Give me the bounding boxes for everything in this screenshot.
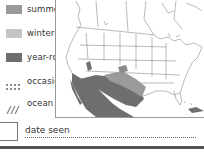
dotted-swatch-icon [6,77,22,86]
legend-item-winter: winter [6,28,54,38]
hatched-swatch-icon [6,99,22,108]
bottom-rule [0,146,204,149]
range-map [55,0,204,118]
sighting-record: date seen [0,119,204,152]
winter-swatch-icon [6,29,22,38]
date-seen-label: date seen [25,125,70,135]
range-map-card: summer winter year-round occasional [0,0,204,152]
summer-swatch-icon [6,5,22,14]
north-america-map [56,0,204,117]
legend-label: winter [27,28,54,38]
seen-checkbox[interactable] [0,122,18,141]
year-round-swatch-icon [6,53,22,62]
date-seen-field[interactable] [25,137,196,138]
